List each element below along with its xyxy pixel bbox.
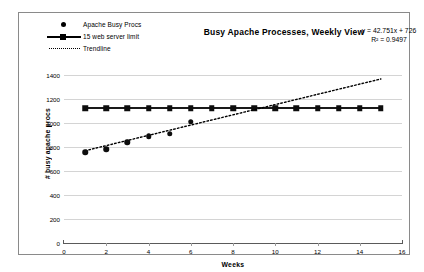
diamond-marker-icon <box>47 19 81 30</box>
chart-frame: Apache Busy Procs 15 web server limit Tr… <box>18 12 410 255</box>
data-point <box>188 119 194 125</box>
x-axis-tick-mark <box>318 243 319 246</box>
x-axis-label: Weeks <box>64 261 402 268</box>
legend-label: Trendline <box>83 43 111 54</box>
x-axis-tick-mark <box>275 243 276 246</box>
x-axis-tick-mark <box>191 243 192 246</box>
y-axis-tick-label: 400 <box>50 192 60 199</box>
y-axis-tick-label: 1000 <box>46 120 60 127</box>
y-axis-tick-label: 0 <box>57 240 60 247</box>
x-axis-tick-label: 10 <box>272 248 279 255</box>
trendline <box>64 75 402 243</box>
y-axis-tick-label: 800 <box>50 144 60 151</box>
legend-label: Apache Busy Procs <box>83 19 141 30</box>
x-axis-tick-label: 2 <box>105 248 108 255</box>
equation-text: y = 42.751x + 726 <box>349 26 424 35</box>
legend-item-trendline: Trendline <box>47 43 197 54</box>
x-axis-tick-label: 8 <box>231 248 234 255</box>
x-axis-tick-label: 16 <box>399 248 406 255</box>
data-point <box>82 150 88 156</box>
x-axis-tick-mark <box>360 243 361 246</box>
y-axis-tick-label: 600 <box>50 168 60 175</box>
data-point <box>167 131 173 137</box>
trendline-equation-annotation: y = 42.751x + 726 R² = 0.9497 <box>349 26 424 44</box>
x-axis-tick-label: 14 <box>356 248 363 255</box>
x-axis-tick-mark <box>106 243 107 246</box>
x-axis-tick-label: 4 <box>147 248 150 255</box>
y-axis-tick-label: 1200 <box>46 96 60 103</box>
data-point <box>104 147 110 153</box>
data-point <box>125 139 131 145</box>
y-axis-tick-label: 200 <box>50 216 60 223</box>
chart-title: Busy Apache Processes, Weekly View <box>199 27 369 37</box>
x-axis-tick-label: 12 <box>314 248 321 255</box>
dotted-line-marker-icon <box>47 43 81 54</box>
y-axis-tick-label: 1400 <box>46 72 60 79</box>
legend-item-apache-busy-procs: Apache Busy Procs <box>47 19 197 30</box>
r-squared-text: R² = 0.9497 <box>349 35 424 44</box>
legend-label: 15 web server limit <box>83 31 139 42</box>
x-axis-end-cap <box>402 240 403 244</box>
plot-area: Weeks 0200400600800100012001400024681012… <box>64 75 402 243</box>
x-axis-tick-mark <box>233 243 234 246</box>
x-axis-tick-mark <box>149 243 150 246</box>
x-axis-tick-label: 0 <box>62 248 65 255</box>
square-line-marker-icon <box>47 31 81 42</box>
chart-legend: Apache Busy Procs 15 web server limit Tr… <box>47 19 197 55</box>
x-axis-tick-label: 6 <box>189 248 192 255</box>
data-point <box>146 133 152 139</box>
legend-item-web-server-limit: 15 web server limit <box>47 31 197 42</box>
